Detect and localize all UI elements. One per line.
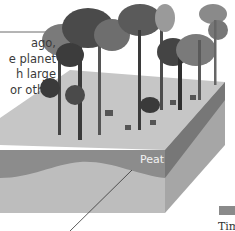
peat-label: Peat — [140, 153, 164, 166]
legend-label: Tim — [218, 220, 235, 231]
intro-caption: ago, e planet h large or other — [0, 36, 56, 98]
peat-forest-diagram: ago, e planet h large or other Peat Tim — [0, 0, 235, 231]
caption-line: e planet — [0, 52, 56, 68]
block-illustration — [0, 0, 235, 231]
caption-line: h large — [0, 67, 56, 83]
caption-line: or other — [0, 83, 56, 99]
caption-line: ago, — [0, 36, 56, 52]
legend-swatch — [219, 206, 235, 215]
